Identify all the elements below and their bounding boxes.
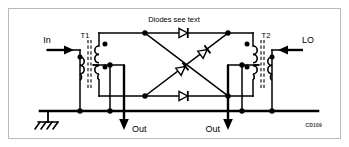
node-ring-top-right (225, 30, 230, 35)
diodes-note-label: Diodes see text (148, 15, 201, 24)
schematic-figure: Diodes see text In LO T1 T2 Out Out CD10… (0, 0, 349, 147)
node-ring-bottom-left (142, 93, 147, 98)
figure-id-caption: CD109 (305, 122, 322, 128)
port-out-right-label: Out (205, 124, 220, 134)
port-in-label: In (43, 35, 51, 45)
node-out-left-ground (107, 108, 112, 113)
transformer-t2-label: T2 (262, 31, 271, 40)
schematic-canvas: Diodes see text In LO T1 T2 Out Out CD10… (0, 0, 349, 147)
port-lo-label: LO (302, 35, 314, 45)
node-t1-tap (107, 62, 112, 67)
t1-primary-dot (78, 55, 83, 60)
t2-primary-dot (270, 55, 275, 60)
node-t2-tap (239, 62, 244, 67)
node-ring-top-left (142, 30, 147, 35)
port-out-left-label: Out (132, 124, 147, 134)
t1-secondary-dot-upper (103, 42, 108, 47)
node-out-right-ground (239, 108, 244, 113)
t2-secondary-dot-upper (245, 42, 250, 47)
node-t1-primary-ground (77, 108, 82, 113)
node-t2-primary-ground (269, 108, 274, 113)
t1-secondary-dot-lower (103, 65, 108, 70)
transformer-t1-label: T1 (81, 31, 90, 40)
t2-secondary-dot-lower (245, 65, 250, 70)
